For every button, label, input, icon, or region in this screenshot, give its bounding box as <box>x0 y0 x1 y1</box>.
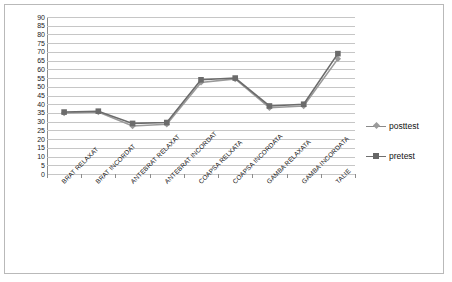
y-tick-label: 85 <box>21 22 45 29</box>
y-tick-label: 75 <box>21 40 45 47</box>
y-tick-label: 40 <box>21 101 45 108</box>
data-point-pretest <box>267 103 273 109</box>
x-tick-mark <box>47 174 48 178</box>
y-tick-label: 5 <box>21 162 45 169</box>
data-point-pretest <box>301 101 307 107</box>
x-tick-mark <box>115 174 116 178</box>
x-tick-mark <box>355 174 356 178</box>
y-axis-labels: 908580757065605550454035302520151050 <box>19 17 45 174</box>
series-line-pretest <box>64 54 338 124</box>
y-tick-label: 55 <box>21 75 45 82</box>
legend-item-posttest: posttest <box>366 118 450 134</box>
y-tick-label: 80 <box>21 31 45 38</box>
line-chart: 908580757065605550454035302520151050 BRA… <box>0 0 452 282</box>
series-line-posttest <box>64 59 338 126</box>
x-tick-mark <box>252 174 253 178</box>
y-tick-label: 70 <box>21 48 45 55</box>
chart-legend: posttest pretest <box>366 118 450 178</box>
x-tick-mark <box>81 174 82 178</box>
legend-item-pretest: pretest <box>366 148 450 164</box>
y-tick-label: 90 <box>21 14 45 21</box>
x-tick-mark <box>321 174 322 178</box>
y-tick-label: 45 <box>21 92 45 99</box>
legend-label-pretest: pretest <box>389 151 415 161</box>
y-tick-label: 60 <box>21 66 45 73</box>
y-tick-label: 25 <box>21 127 45 134</box>
legend-label-posttest: posttest <box>389 121 419 131</box>
x-tick-mark <box>287 174 288 178</box>
data-point-pretest <box>164 120 170 126</box>
y-tick-label: 65 <box>21 57 45 64</box>
data-point-pretest <box>61 109 67 115</box>
pretest-marker-icon <box>366 152 386 161</box>
data-point-pretest <box>335 51 341 57</box>
series-layer <box>47 17 355 174</box>
y-tick-label: 30 <box>21 118 45 125</box>
gridline <box>47 174 355 175</box>
x-tick-mark <box>150 174 151 178</box>
y-tick-label: 10 <box>21 153 45 160</box>
y-tick-label: 50 <box>21 83 45 90</box>
x-tick-mark <box>218 174 219 178</box>
data-point-pretest <box>96 108 102 114</box>
posttest-marker-icon <box>366 122 386 131</box>
y-tick-label: 35 <box>21 109 45 116</box>
y-tick-label: 0 <box>21 171 45 178</box>
data-point-pretest <box>130 121 136 127</box>
y-tick-label: 20 <box>21 136 45 143</box>
data-point-pretest <box>232 75 238 81</box>
x-tick-mark <box>184 174 185 178</box>
y-tick-label: 15 <box>21 144 45 151</box>
data-point-pretest <box>198 77 204 83</box>
